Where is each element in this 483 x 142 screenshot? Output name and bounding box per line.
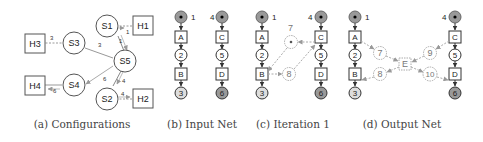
node-s5: S5 <box>114 50 136 72</box>
svg-text:4: 4 <box>442 13 447 22</box>
edge-label-s5-s2: 4 <box>122 78 126 84</box>
svg-text:10: 10 <box>426 70 435 79</box>
left-chain: 1 A 2 B 3 <box>175 11 196 99</box>
svg-text:8: 8 <box>286 69 291 79</box>
svg-text:H4: H4 <box>29 81 41 91</box>
caption-iteration-1: (c) Iteration 1 <box>256 118 330 130</box>
caption-input-net: (b) Input Net <box>167 118 238 130</box>
svg-text:D: D <box>452 70 458 79</box>
svg-text:S2: S2 <box>101 94 112 104</box>
edge-label-h3-s3: 3 <box>50 35 54 41</box>
right-chain: 4 C 5 D 6 <box>442 11 461 99</box>
edge-label-s5-s4: 6 <box>103 76 107 82</box>
svg-text:A: A <box>178 33 184 42</box>
edge-label-h1-s1: 1 <box>126 29 130 35</box>
figure: 1 1 3 3 6 6 4 4 S1 S3 S5 S4 S2 <box>0 0 483 142</box>
svg-text:B: B <box>259 70 264 79</box>
svg-text:S3: S3 <box>68 38 79 48</box>
svg-text:A: A <box>259 33 265 42</box>
svg-text:4: 4 <box>210 13 215 22</box>
right-chain: 4 C 5 D 6 <box>210 11 228 99</box>
svg-text:5: 5 <box>453 51 458 60</box>
left-chain: 1 A 2 B 3 <box>256 11 277 99</box>
panel-output-net: 1 A 2 B 3 4 C 5 D <box>349 11 461 130</box>
svg-text:D: D <box>318 70 324 79</box>
svg-text:H1: H1 <box>137 21 149 31</box>
place-7: 7 <box>374 47 387 60</box>
svg-text:1: 1 <box>365 13 370 22</box>
place-7: 7 <box>285 23 298 49</box>
svg-text:4: 4 <box>308 13 313 22</box>
svg-text:S4: S4 <box>68 80 79 90</box>
svg-text:9: 9 <box>427 48 432 58</box>
node-s2: S2 <box>96 88 118 110</box>
svg-text:2: 2 <box>353 51 358 60</box>
svg-text:3: 3 <box>260 89 265 98</box>
caption-output-net: (d) Output Net <box>363 118 442 130</box>
svg-text:5: 5 <box>220 51 225 60</box>
panel-configurations: 1 1 3 3 6 6 4 4 S1 S3 S5 S4 S2 <box>25 15 153 130</box>
svg-text:S5: S5 <box>119 56 130 66</box>
svg-text:H2: H2 <box>137 94 149 104</box>
node-s3: S3 <box>63 32 85 54</box>
svg-text:3: 3 <box>353 89 358 98</box>
node-h4: H4 <box>25 76 45 95</box>
svg-text:8: 8 <box>377 69 382 79</box>
svg-text:B: B <box>352 70 357 79</box>
node-h3: H3 <box>25 34 45 53</box>
svg-text:2: 2 <box>179 51 184 60</box>
left-chain: 1 A 2 B 3 <box>349 11 370 99</box>
svg-text:E: E <box>402 59 408 69</box>
svg-text:B: B <box>178 70 183 79</box>
panel-iteration-1: 1 A 2 B 3 4 C 5 D <box>256 11 330 130</box>
svg-text:A: A <box>352 33 358 42</box>
svg-text:6: 6 <box>453 89 458 98</box>
edge-label-s2-h2: 4 <box>121 91 125 97</box>
svg-text:3: 3 <box>179 89 184 98</box>
svg-text:C: C <box>452 33 458 42</box>
svg-text:6: 6 <box>220 89 225 98</box>
svg-text:7: 7 <box>288 23 293 33</box>
svg-text:2: 2 <box>260 51 265 60</box>
place-8: 8 <box>374 68 387 81</box>
node-s4: S4 <box>63 74 85 96</box>
svg-text:C: C <box>219 33 225 42</box>
node-h2: H2 <box>133 89 153 108</box>
panel-input-net: 1 A 2 B 3 4 C 5 D <box>167 11 238 130</box>
caption-configurations: (a) Configurations <box>34 118 131 130</box>
node-h1: H1 <box>133 16 153 35</box>
svg-text:6: 6 <box>319 89 324 98</box>
svg-text:7: 7 <box>377 48 382 58</box>
place-10: 10 <box>423 67 437 81</box>
svg-text:D: D <box>219 70 225 79</box>
edge-label-s3-s5: 3 <box>98 42 102 48</box>
node-s1: S1 <box>96 15 118 37</box>
place-8: 8 <box>283 68 296 81</box>
svg-text:H3: H3 <box>29 39 41 49</box>
svg-text:C: C <box>318 33 324 42</box>
svg-text:S1: S1 <box>101 21 112 31</box>
svg-text:1: 1 <box>272 13 277 22</box>
svg-text:5: 5 <box>319 51 324 60</box>
right-chain: 4 C 5 D 6 <box>308 11 327 99</box>
place-9: 9 <box>424 47 437 60</box>
transition-e: E <box>399 58 411 70</box>
svg-text:1: 1 <box>191 13 196 22</box>
